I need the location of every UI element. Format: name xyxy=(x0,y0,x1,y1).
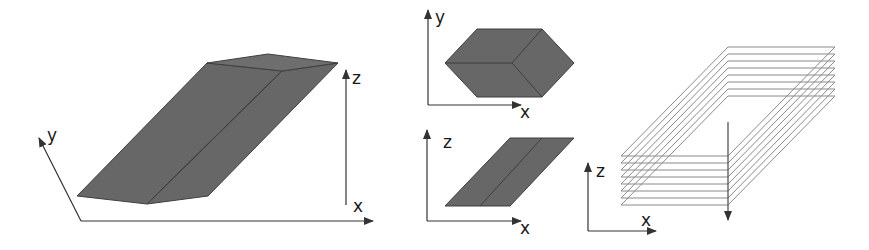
z-axis-label: z xyxy=(352,68,361,88)
x-axis-label: x xyxy=(520,218,530,238)
axes-layer-stack: z x xyxy=(588,161,656,231)
y-axis-label: y xyxy=(47,125,57,145)
panel-layer-stack: z x xyxy=(588,47,835,231)
hexagon-projection xyxy=(445,29,574,97)
x-axis-label: x xyxy=(520,102,530,122)
side-view-parallelogram xyxy=(445,138,574,206)
x-axis-label: x xyxy=(353,196,363,216)
parallelogram-projection xyxy=(445,138,574,206)
panel-top-view: y x xyxy=(428,7,574,122)
x-axis-label: x xyxy=(641,210,651,230)
panel-side-view: z x xyxy=(427,130,574,238)
y-axis-label: y xyxy=(435,7,445,27)
sheared-prism-solid xyxy=(77,54,338,204)
y-axis xyxy=(39,138,81,221)
diagram-canvas: y z x y x z x xyxy=(0,0,869,250)
panel-3d-prism: y z x xyxy=(39,54,373,221)
z-axis-label: z xyxy=(596,161,605,181)
z-axis-label: z xyxy=(443,132,452,152)
